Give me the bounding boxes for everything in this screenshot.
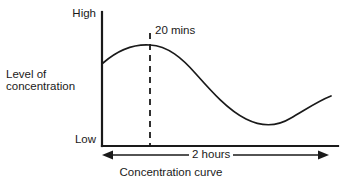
y-axis-low-label: Low [40,133,96,145]
duration-arrow-head-left [102,151,113,160]
y-axis-title: Level of concentration [6,68,96,92]
y-axis-title-line-2: concentration [6,80,96,92]
concentration-curve-figure: High Low Level of concentration 20 mins … [0,0,342,184]
duration-arrow-head-right [318,151,329,160]
peak-time-annotation: 20 mins [155,24,195,36]
y-axis-high-label: High [40,7,96,19]
chart-caption: Concentration curve [0,166,342,178]
concentration-curve-path [103,45,331,125]
duration-annotation: 2 hours [189,148,233,160]
y-axis-title-line-1: Level of [6,68,96,80]
